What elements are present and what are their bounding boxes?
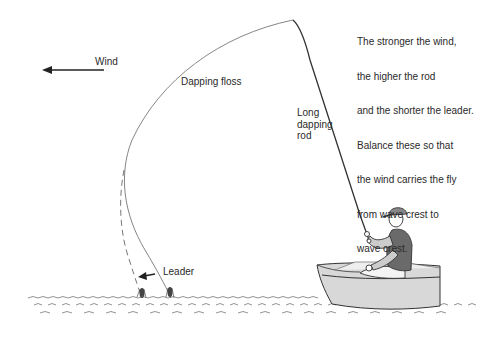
note-line: wave crest. [357, 243, 474, 255]
note-line: the wind carries the fly [357, 174, 474, 186]
leader-label: Leader [163, 266, 194, 278]
dapping-floss-line [124, 20, 293, 298]
note-line: Balance these so that [357, 140, 474, 152]
note-line: The stronger the wind, [357, 36, 474, 48]
instruction-note: The stronger the wind, the higher the ro… [357, 13, 474, 266]
leader-arrow-icon [138, 272, 155, 280]
dapping-floss-label: Dapping floss [181, 76, 242, 88]
wind-label: Wind [95, 56, 118, 68]
note-line: and the shorter the leader. [357, 105, 474, 117]
long-dapping-rod-label: Long dapping rod [297, 107, 333, 142]
leader-dashed-line [121, 170, 142, 298]
note-line: from wave crest to [357, 209, 474, 221]
note-line: the higher the rod [357, 71, 474, 83]
